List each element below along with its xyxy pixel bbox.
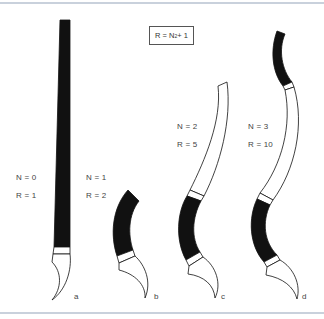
brush-d-letter: d — [302, 292, 306, 301]
formula-rhs: + 1 — [177, 31, 188, 40]
brush-b — [113, 190, 148, 298]
brush-a-letter: a — [74, 292, 78, 301]
formula-lhs: R = N — [155, 31, 174, 40]
brush-b-n-label: N = 1 — [86, 173, 106, 182]
brush-c — [179, 82, 229, 298]
brush-c-r-label: R = 5 — [177, 140, 197, 149]
brush-b-r-label: R = 2 — [86, 191, 106, 200]
brush-c-letter: c — [221, 292, 225, 301]
brush-d — [251, 31, 298, 299]
brush-d-n-label: N = 3 — [248, 122, 268, 131]
brush-a — [52, 20, 70, 300]
brush-d-r-label: R = 10 — [248, 140, 273, 149]
brush-a-n-label: N = 0 — [16, 173, 36, 182]
brush-b-letter: b — [154, 292, 158, 301]
formula-box: R = N2 + 1 — [149, 26, 194, 45]
brush-figure — [0, 0, 324, 319]
brush-a-r-label: R = 1 — [16, 191, 36, 200]
brush-c-n-label: N = 2 — [177, 122, 197, 131]
